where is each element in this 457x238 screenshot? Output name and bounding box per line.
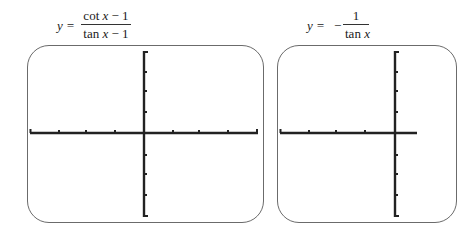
right-graph-axes (280, 51, 417, 217)
left-graph-axes (30, 51, 258, 217)
